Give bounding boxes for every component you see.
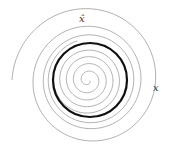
label-x: x	[153, 83, 159, 93]
outer-trajectory-spiral	[12, 9, 156, 141]
inner-trajectory-spiral	[53, 50, 119, 113]
limit-cycle-circle	[53, 43, 127, 117]
label-x-hat: x̂	[79, 14, 85, 24]
limit-cycle-diagram	[0, 0, 172, 155]
